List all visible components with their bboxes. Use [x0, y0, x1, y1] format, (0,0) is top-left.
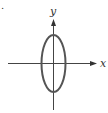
x-axis-arrow-icon	[90, 61, 97, 66]
x-axis	[8, 61, 97, 66]
figure-marker: .	[1, 0, 4, 11]
y-axis-label: y	[49, 5, 57, 18]
x-axis-label: x	[100, 57, 107, 70]
ellipse-diagram: . x y	[0, 0, 108, 113]
y-axis	[51, 19, 56, 110]
y-axis-arrow-icon	[51, 19, 56, 26]
